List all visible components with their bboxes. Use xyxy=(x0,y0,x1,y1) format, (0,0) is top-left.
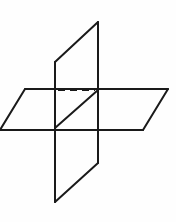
intersecting-planes-diagram xyxy=(0,0,176,222)
figure-background xyxy=(0,0,176,222)
figure-container xyxy=(0,0,176,222)
